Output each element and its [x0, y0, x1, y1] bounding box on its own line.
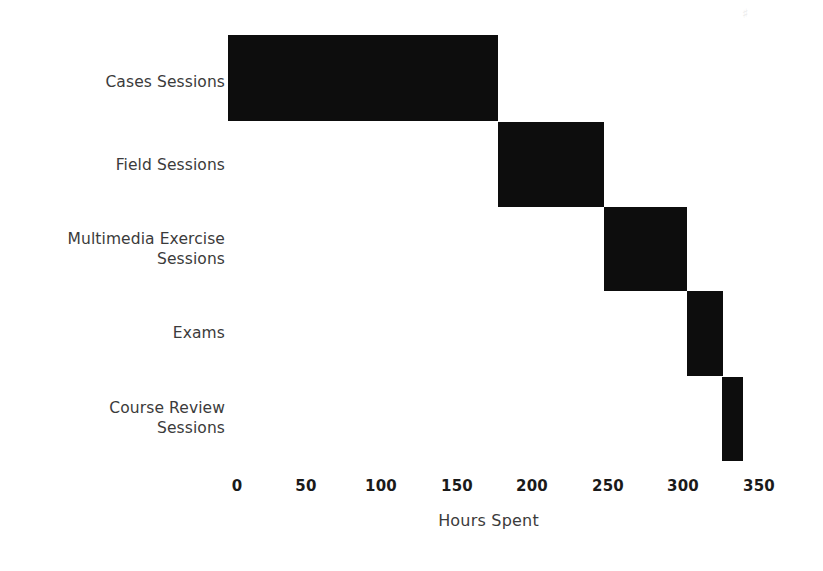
bar-field-sessions [498, 122, 604, 207]
category-label-field-sessions: Field Sessions [10, 155, 225, 175]
bar-exams [687, 291, 723, 376]
x-tick-0: 0 [217, 477, 257, 495]
category-label-multimedia-exercise-sessions: Multimedia Exercise Sessions [10, 229, 225, 269]
category-label-course-review-sessions: Course Review Sessions [10, 398, 225, 438]
x-tick-150: 150 [437, 477, 477, 495]
category-label-exams: Exams [10, 323, 225, 343]
x-tick-100: 100 [361, 477, 401, 495]
category-label-cases-sessions: Cases Sessions [10, 72, 225, 92]
x-tick-200: 200 [512, 477, 552, 495]
bar-course-review-sessions [722, 377, 743, 461]
bar-cases-sessions [228, 35, 498, 121]
scan-artifact-mark: ♯ [742, 6, 758, 24]
x-axis-title: Hours Spent [0, 511, 823, 530]
bar-multimedia-exercise-sessions [604, 207, 687, 291]
x-axis-title-text: Hours Spent [438, 511, 539, 530]
waterfall-chart: Cases Sessions Field Sessions Multimedia… [0, 0, 823, 571]
x-tick-50: 50 [286, 477, 326, 495]
x-tick-300: 300 [663, 477, 703, 495]
x-tick-350: 350 [739, 477, 779, 495]
x-tick-250: 250 [588, 477, 628, 495]
